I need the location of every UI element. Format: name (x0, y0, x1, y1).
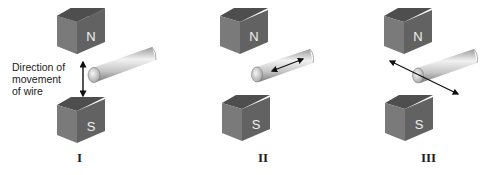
annotation-line-2: movement (12, 73, 82, 85)
panel-label-3: III (421, 150, 436, 166)
south-magnet: S (222, 95, 270, 141)
north-magnet: N (384, 8, 432, 54)
south-magnet: S (57, 97, 105, 143)
south-magnet: S (385, 95, 433, 141)
movement-annotation: Direction of movement of wire (12, 61, 82, 97)
north-magnet: N (57, 8, 105, 54)
wire (88, 47, 156, 83)
panel-3: N S (384, 8, 478, 141)
north-pole-label: N (249, 29, 258, 44)
north-pole-label: N (413, 29, 422, 44)
panel-2: N S (220, 8, 314, 141)
north-pole-label: N (86, 29, 95, 44)
south-pole-label: S (87, 119, 96, 134)
panel-label-2: II (258, 150, 268, 166)
south-pole-label: S (415, 117, 424, 132)
annotation-line-1: Direction of (12, 61, 82, 73)
north-magnet: N (220, 8, 268, 54)
annotation-line-3: of wire (12, 85, 82, 97)
wire (413, 49, 478, 83)
wire (252, 49, 314, 82)
south-pole-label: S (252, 117, 261, 132)
panel-label-1: I (77, 150, 82, 166)
